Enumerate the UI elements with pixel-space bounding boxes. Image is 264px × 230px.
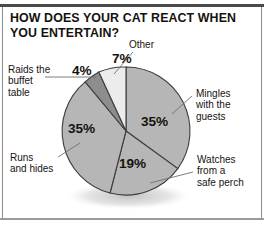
slice-value-raids: 4% xyxy=(72,63,92,78)
slice-value-runs: 35% xyxy=(68,121,95,136)
slice-label-mingles: Mingles with the guests xyxy=(196,88,258,122)
slice-label-runs: Runs and hides xyxy=(10,152,74,175)
slice-label-watches: Watches from a safe perch xyxy=(197,154,259,188)
slice-value-other: 7% xyxy=(112,51,132,66)
slice-value-mingles: 35% xyxy=(141,114,168,129)
slice-label-raids: Raids the buffet table xyxy=(8,64,68,98)
slice-label-other: Other xyxy=(129,39,173,50)
slice-value-watches: 19% xyxy=(119,156,146,171)
pie-chart-figure: HOW DOES YOUR CAT REACT WHEN YOU ENTERTA… xyxy=(0,0,264,230)
